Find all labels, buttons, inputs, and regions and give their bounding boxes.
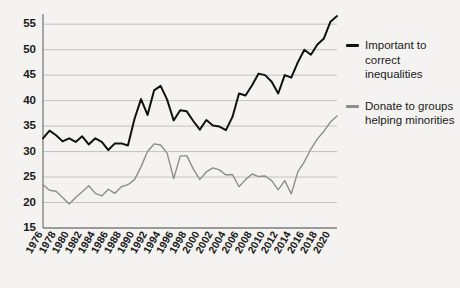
legend-item-label: Important to correct inequalities	[365, 38, 458, 82]
y-axis-tick-label: 55	[23, 17, 36, 29]
chart-legend: Important to correct inequalities Donate…	[346, 38, 458, 145]
y-axis-tick-label: 25	[23, 170, 36, 182]
y-axis-tick-label: 35	[23, 119, 36, 131]
legend-swatch-icon	[346, 105, 359, 108]
legend-swatch-icon	[346, 44, 359, 47]
line-chart: 1520253035404550551976197819801982198419…	[0, 0, 460, 288]
y-axis-tick-label: 45	[23, 68, 36, 80]
y-axis-tick-label: 40	[23, 94, 36, 106]
legend-item[interactable]: Donate to groups helping minorities	[346, 99, 458, 128]
y-axis-tick-label: 30	[23, 145, 36, 157]
y-axis-tick-label: 20	[23, 196, 36, 208]
legend-item-label: Donate to groups helping minorities	[365, 99, 458, 128]
legend-item[interactable]: Important to correct inequalities	[346, 38, 458, 82]
series-line-2	[43, 116, 337, 204]
y-axis-tick-label: 50	[23, 43, 36, 55]
series-line-1	[43, 16, 337, 150]
